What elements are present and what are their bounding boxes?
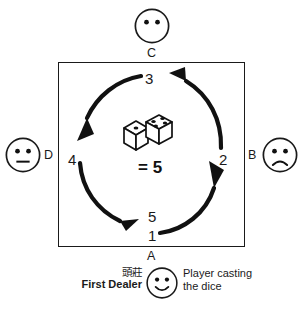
arrowhead-toward-3	[169, 67, 186, 81]
legend-first-dealer-cn: 頭莊	[30, 266, 142, 278]
count-number-4: 4	[68, 152, 76, 167]
count-number-3: 3	[145, 71, 153, 86]
seat-label-c: C	[147, 47, 156, 60]
eye-right-icon	[26, 149, 31, 154]
eye-right-icon	[165, 277, 169, 281]
count-number-1: 1	[148, 228, 156, 243]
die-right	[146, 115, 172, 144]
eye-left-icon	[15, 149, 20, 154]
seat-label-d: D	[44, 149, 53, 162]
die-right-pip-4	[163, 122, 167, 125]
die-left-pip-1	[134, 126, 139, 129]
die-right-pip-1	[151, 120, 155, 123]
eye-right-icon	[155, 20, 160, 25]
seat-label-a: A	[147, 250, 155, 263]
eye-left-icon	[144, 20, 149, 25]
legend-first-dealer: 頭莊 First Dealer	[30, 266, 142, 291]
seat-face-b[interactable]	[261, 136, 299, 174]
arrowhead-toward-4	[77, 118, 94, 141]
count-number-2: 2	[219, 152, 227, 167]
seat-face-c[interactable]	[133, 7, 171, 45]
seat-face-d[interactable]	[4, 136, 42, 174]
dice-sum-label: = 5	[138, 159, 162, 176]
dice-casting-diagram: C A D B 1 2 3 4 5 = 5 頭莊 First Dealer	[0, 0, 303, 309]
eye-right-icon	[283, 149, 288, 154]
legend-caster-line-1: Player casting	[183, 267, 299, 280]
legend-face-caster	[145, 266, 179, 300]
eye-left-icon	[155, 277, 159, 281]
arc-segment-1-to-2	[160, 188, 214, 233]
die-left	[124, 121, 148, 150]
legend-caster-text: Player casting the dice	[183, 267, 299, 294]
dice-pair	[108, 112, 180, 160]
legend-first-dealer-en: First Dealer	[30, 278, 142, 291]
die-right-pip-2	[160, 117, 164, 120]
seat-label-b: B	[248, 149, 256, 162]
arc-segment-2-to-3	[186, 81, 221, 148]
legend-caster-line-2: the dice	[183, 280, 299, 293]
die-right-pip-3	[154, 124, 158, 127]
arc-segment-4-to-5	[80, 163, 120, 221]
eye-left-icon	[272, 149, 277, 154]
count-number-5: 5	[148, 209, 156, 224]
arrowhead-toward-5	[120, 219, 139, 231]
